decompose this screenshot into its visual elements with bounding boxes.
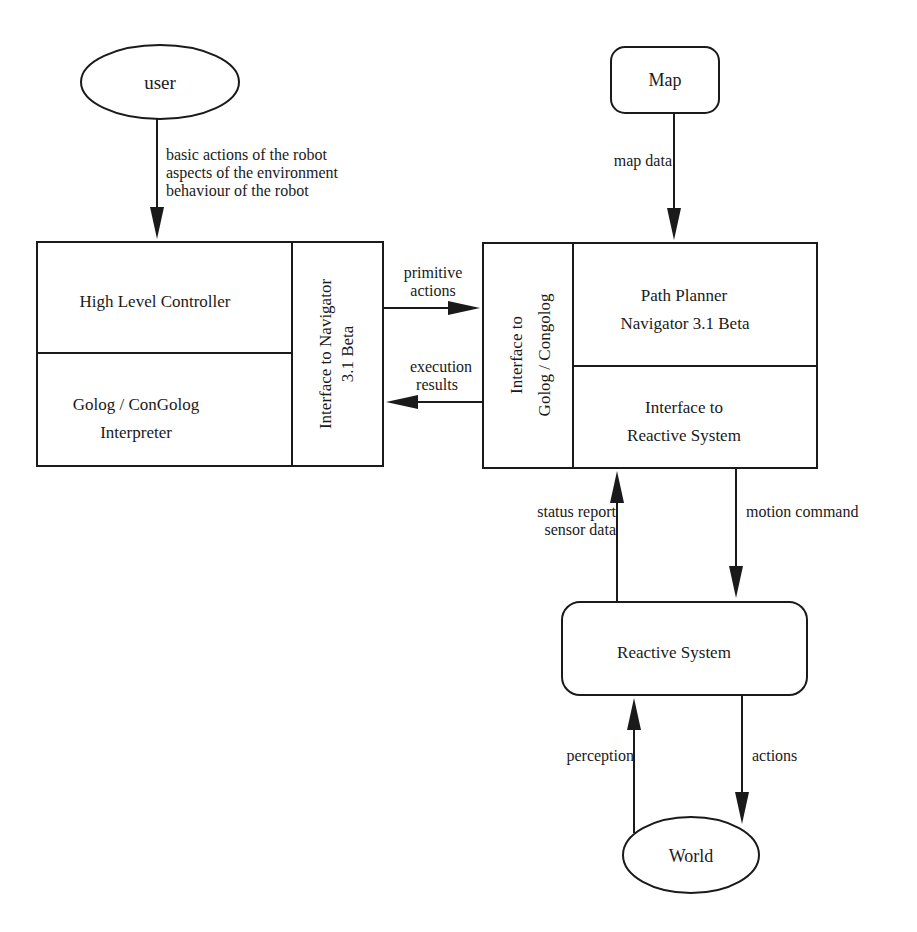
edge-label-line3: behaviour of the robot	[166, 182, 309, 199]
edge-primitive-actions: primitive actions	[383, 264, 480, 315]
status-report-label: status report	[537, 503, 616, 521]
arrowhead-up-icon	[627, 698, 641, 730]
motion-command-label: motion command	[746, 503, 858, 520]
arrowhead-up-icon	[610, 471, 624, 503]
map-data-label: map data	[614, 152, 672, 170]
edge-perception: perception	[566, 698, 641, 833]
high-level-controller-label: High Level Controller	[79, 292, 230, 311]
map-node: Map	[611, 47, 719, 113]
interface-to-golog-label-line1: Interface to	[507, 316, 526, 394]
arrowhead-down-icon	[667, 208, 681, 240]
execution-label-line2: results	[416, 376, 458, 393]
user-label: user	[144, 72, 176, 93]
architecture-diagram: user basic actions of the robot aspects …	[0, 0, 917, 932]
world-node: World	[623, 817, 759, 893]
edge-user-to-controller: basic actions of the robot aspects of th…	[150, 119, 339, 239]
reactive-system-node: Reactive System	[562, 602, 807, 695]
execution-label-line1: execution	[410, 358, 472, 375]
perception-label: perception	[566, 747, 634, 765]
arrowhead-down-icon	[729, 566, 743, 598]
reactive-system-label: Reactive System	[617, 643, 731, 662]
edge-motion-command: motion command	[729, 468, 858, 598]
arrowhead-left-icon	[386, 395, 418, 409]
golog-interpreter-label-line2: Interpreter	[100, 423, 172, 442]
path-planner-label-line2: Navigator 3.1 Beta	[621, 314, 750, 333]
edge-actions: actions	[735, 695, 797, 824]
golog-interpreter-label-line1: Golog / ConGolog	[73, 395, 200, 414]
edge-status-report: status report sensor data	[537, 471, 624, 602]
world-label: World	[669, 846, 714, 866]
arrowhead-down-icon	[150, 207, 164, 239]
interface-to-navigator-label-line2: 3.1 Beta	[338, 325, 357, 382]
map-label: Map	[649, 70, 682, 90]
edge-map-data: map data	[614, 113, 681, 240]
sensor-data-label: sensor data	[544, 521, 616, 538]
actions-label: actions	[752, 747, 797, 764]
interface-to-reactive-label-line1: Interface to	[645, 398, 723, 417]
path-planner-label-line1: Path Planner	[641, 286, 728, 305]
interface-to-golog-label-line2: Golog / Congolog	[535, 293, 554, 416]
arrowhead-right-icon	[448, 301, 480, 315]
arrowhead-down-icon	[735, 792, 749, 824]
controller-block: High Level Controller Golog / ConGolog I…	[37, 242, 383, 466]
primitive-label-line2: actions	[410, 282, 455, 299]
edge-label-line2: aspects of the environment	[166, 164, 339, 182]
edge-label-line1: basic actions of the robot	[166, 146, 327, 163]
navigator-block: Interface to Golog / Congolog Path Plann…	[483, 243, 817, 468]
primitive-label-line1: primitive	[404, 264, 463, 282]
interface-to-reactive-label-line2: Reactive System	[627, 426, 741, 445]
user-node: user	[81, 45, 239, 119]
interface-to-navigator-label-line1: Interface to Navigator	[316, 279, 335, 429]
edge-execution-results: execution results	[386, 358, 483, 409]
